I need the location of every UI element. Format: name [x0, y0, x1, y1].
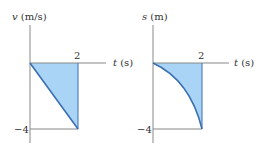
velocity-time-chart: v (m/s) 2 t (s) −4: [12, 11, 133, 143]
velocity-x-tick-2: 2: [74, 50, 80, 61]
position-time-chart: s (m) 2 t (s) −4: [137, 11, 254, 143]
position-x-tick-2: 2: [198, 50, 204, 61]
position-axis-label: s (m): [142, 11, 168, 22]
position-shaded-area: [153, 63, 202, 129]
position-t-axis-label: t (s): [234, 57, 254, 68]
kinematics-diagrams: v (m/s) 2 t (s) −4 s (m) 2 t (s) −4: [0, 0, 260, 157]
velocity-t-axis-label: t (s): [113, 57, 133, 68]
position-y-tick-minus4: −4: [137, 124, 152, 135]
velocity-axis-label: v (m/s): [12, 11, 47, 22]
velocity-y-tick-minus4: −4: [14, 124, 29, 135]
